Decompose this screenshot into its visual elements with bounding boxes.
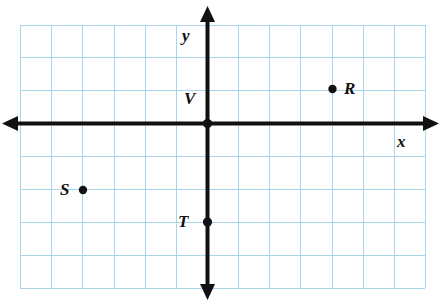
y-axis-bottom-arrowhead [200, 284, 215, 300]
x-axis-label: x [397, 133, 406, 150]
point-S[interactable] [79, 186, 87, 194]
point-label-R: R [344, 80, 355, 97]
point-V-origin[interactable] [203, 119, 212, 128]
point-R[interactable] [328, 85, 336, 93]
point-label-V: V [184, 90, 195, 107]
point-label-S: S [60, 181, 69, 198]
point-label-T: T [178, 213, 188, 230]
y-axis-label: y [182, 27, 190, 44]
x-axis-left-arrowhead [2, 116, 18, 131]
coordinate-grid-svg [0, 0, 441, 304]
grid-lines-group [20, 25, 426, 289]
coordinate-plane-figure: y x R S T V [0, 0, 441, 304]
point-T[interactable] [203, 217, 212, 226]
y-axis-top-arrowhead [200, 6, 215, 22]
horizontal-grid-lines [20, 26, 425, 289]
x-axis-right-arrowhead [423, 116, 439, 131]
